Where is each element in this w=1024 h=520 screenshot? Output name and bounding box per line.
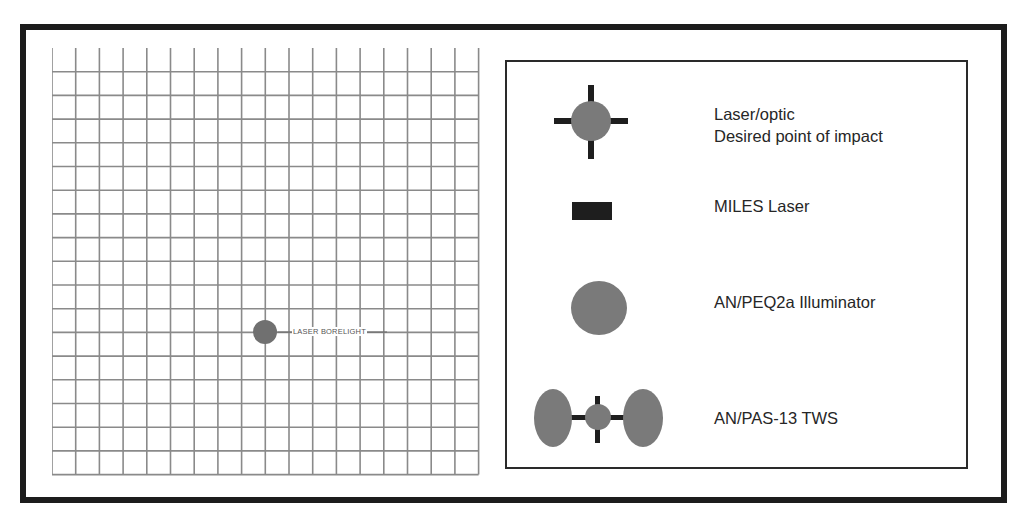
filled-rectangle-icon	[572, 202, 612, 220]
legend-item-laser-optic: Laser/optic Desired point of impact	[714, 103, 883, 147]
filled-circle-icon	[571, 281, 627, 335]
legend-label: AN/PEQ2a Illuminator	[714, 291, 875, 313]
legend-label-line1: Laser/optic	[714, 103, 883, 125]
legend-item-miles-laser: MILES Laser	[714, 195, 809, 217]
crosshair-circle-icon	[554, 85, 628, 159]
legend-label: MILES Laser	[714, 195, 809, 217]
grid-lines	[52, 48, 480, 476]
legend-item-peq2a: AN/PEQ2a Illuminator	[714, 291, 875, 313]
legend-item-pas13-tws: AN/PAS-13 TWS	[714, 407, 838, 429]
legend-label-line2: Desired point of impact	[714, 125, 883, 147]
legend-label: AN/PAS-13 TWS	[714, 407, 838, 429]
laser-borelight-label: LASER BORELIGHT	[292, 327, 367, 336]
tws-dual-ellipse-icon	[534, 389, 663, 447]
boresight-grid: LASER BORELIGHT	[52, 48, 480, 476]
legend-box: Laser/optic Desired point of impact MILE…	[505, 60, 968, 469]
